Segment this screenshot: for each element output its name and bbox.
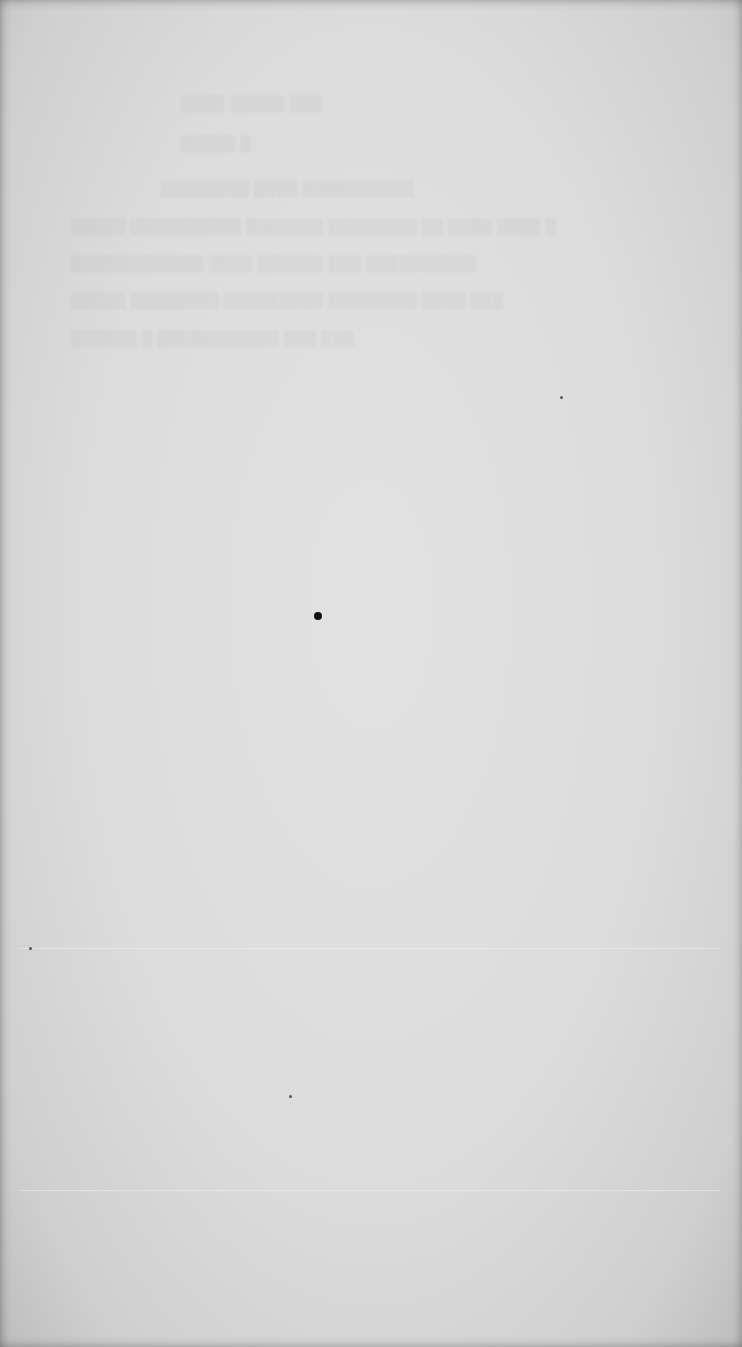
show-through-line: ▒▒▒▒▒▒▒▒▒▒ ▒▒▒ ▒▒▒▒▒▒ ▒▒▒▒ ▒▒▒▒▒▒▒▒▒▒▒▒: [70, 255, 476, 272]
ink-speck: [289, 1095, 292, 1098]
paper-crease: [20, 948, 720, 949]
ink-speck: [29, 947, 32, 950]
ink-speck: [560, 396, 563, 399]
show-through-line: ▒ ▒▒▒▒ ▒▒▒▒ ▒▒ ▒▒▒▒▒▒▒▒ ▒▒▒▒▒▒▒ ▒▒▒▒▒▒▒▒…: [70, 218, 556, 235]
show-through-line: ▒▒▒ ▒▒▒ ▒▒▒▒▒▒▒▒▒▒▒ ▒ ▒▒▒▒▒▒: [70, 330, 354, 347]
scanned-page: ▒▒▒ ▒▒▒▒▒ ▒▒▒▒ ▒ ▒▒▒▒▒ ▒▒▒▒▒▒▒▒▒▒ ▒▒▒▒ ▒…: [0, 0, 742, 1347]
paper-crease: [20, 1190, 720, 1191]
show-through-line: ▒▒▒ ▒▒▒▒▒ ▒▒▒▒: [180, 95, 322, 112]
show-through-line: ▒ ▒▒▒▒▒: [180, 135, 251, 152]
show-through-line: ▒▒▒▒▒▒▒▒▒▒ ▒▒▒▒ ▒▒▒▒▒▒▒▒: [160, 180, 413, 197]
show-through-line: ▒▒▒ ▒▒▒▒ ▒▒▒▒▒▒▒▒ ▒▒▒▒▒▒▒▒▒ ▒▒▒▒▒▒▒▒ ▒▒▒…: [70, 292, 503, 309]
ink-speck: [314, 612, 322, 620]
